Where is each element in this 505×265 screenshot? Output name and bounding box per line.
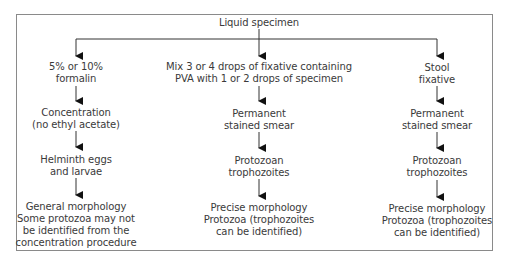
node-text: General morphology	[16, 201, 137, 213]
node-text: trophozoites	[407, 167, 468, 179]
node-text: 5% or 10%	[49, 61, 103, 73]
node-text: fixative	[419, 74, 455, 86]
node-text: Some protozoa may not	[16, 213, 137, 225]
protozoan-node: Protozoan trophozoites	[407, 155, 468, 179]
node-text: stained smear	[402, 120, 472, 132]
general-morphology-node: General morphology Some protozoa may not…	[16, 201, 137, 249]
node-text: PVA with 1 or 2 drops of specimen	[166, 73, 352, 85]
node-text: Liquid specimen	[219, 17, 299, 29]
permanent-smear-node: Permanent stained smear	[224, 108, 294, 132]
node-text: Protozoa (trophozoites	[382, 215, 492, 227]
node-text: stained smear	[224, 120, 294, 132]
helminth-node: Helminth eggs and larvae	[40, 154, 112, 178]
root-node: Liquid specimen	[219, 17, 299, 29]
node-text: (no ethyl acetate)	[32, 119, 120, 131]
concentration-node: Concentration (no ethyl acetate)	[32, 107, 120, 131]
node-text: concentration procedure	[16, 237, 137, 249]
node-text: Permanent	[224, 108, 294, 120]
node-text: formalin	[49, 73, 103, 85]
node-text: Precise morphology	[382, 203, 492, 215]
node-text: trophozoites	[229, 167, 290, 179]
node-text: Protozoan	[229, 155, 290, 167]
permanent-smear-node: Permanent stained smear	[402, 108, 472, 132]
precise-morphology-node: Precise morphology Protozoa (trophozoite…	[382, 203, 492, 239]
node-text: can be identified)	[204, 226, 314, 238]
node-text: Stool	[419, 62, 455, 74]
node-text: Permanent	[402, 108, 472, 120]
node-text: Protozoan	[407, 155, 468, 167]
node-text: Protozoa (trophozoites	[204, 214, 314, 226]
stool-fixative-node: Stool fixative	[419, 62, 455, 86]
node-text: Concentration	[32, 107, 120, 119]
node-text: can be identified)	[382, 227, 492, 239]
protozoan-node: Protozoan trophozoites	[229, 155, 290, 179]
node-text: Helminth eggs	[40, 154, 112, 166]
node-text: Precise morphology	[204, 202, 314, 214]
pva-mix-node: Mix 3 or 4 drops of fixative containing …	[166, 61, 352, 85]
node-text: and larvae	[40, 166, 112, 178]
node-text: Mix 3 or 4 drops of fixative containing	[166, 61, 352, 73]
node-text: be identified from the	[16, 225, 137, 237]
precise-morphology-node: Precise morphology Protozoa (trophozoite…	[204, 202, 314, 238]
formalin-node: 5% or 10% formalin	[49, 61, 103, 85]
